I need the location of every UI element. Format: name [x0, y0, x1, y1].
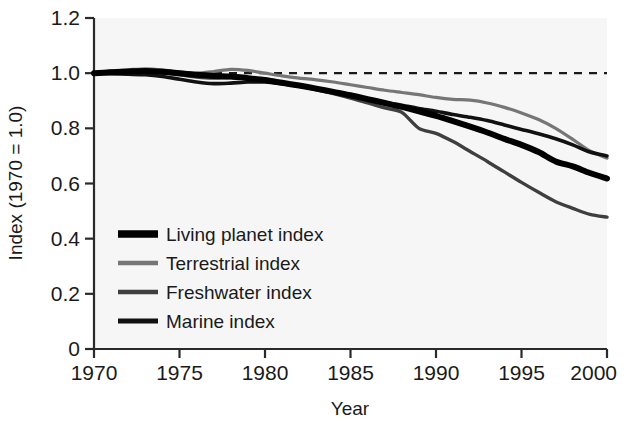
chart-container: 00.20.40.60.81.01.2 19701975198019851990…	[0, 0, 627, 423]
legend-label: Living planet index	[166, 224, 324, 245]
y-tick-label: 0.2	[51, 282, 80, 305]
legend-label: Marine index	[166, 311, 275, 332]
legend-label: Terrestrial index	[166, 253, 301, 274]
x-tick-label: 1995	[498, 361, 545, 384]
x-tick-label: 1990	[413, 361, 460, 384]
y-tick-label: 1.0	[51, 61, 80, 84]
y-tick-label: 0.8	[51, 116, 80, 139]
y-tick-label: 0.4	[51, 227, 81, 250]
x-tick-label: 1970	[71, 361, 118, 384]
y-tick-label: 0.6	[51, 172, 80, 195]
y-tick-label: 1.2	[51, 6, 80, 29]
x-tick-label: 1980	[242, 361, 289, 384]
x-tick-label: 1975	[156, 361, 203, 384]
x-axis-title: Year	[331, 398, 370, 419]
y-axis-title: Index (1970 = 1.0)	[5, 106, 26, 261]
x-tick-label: 1985	[327, 361, 374, 384]
legend-label: Freshwater index	[166, 282, 312, 303]
y-tick-label: 0	[68, 337, 80, 360]
living-planet-index-line-chart: 00.20.40.60.81.01.2 19701975198019851990…	[0, 0, 627, 423]
x-tick-label: 2000	[570, 361, 617, 384]
